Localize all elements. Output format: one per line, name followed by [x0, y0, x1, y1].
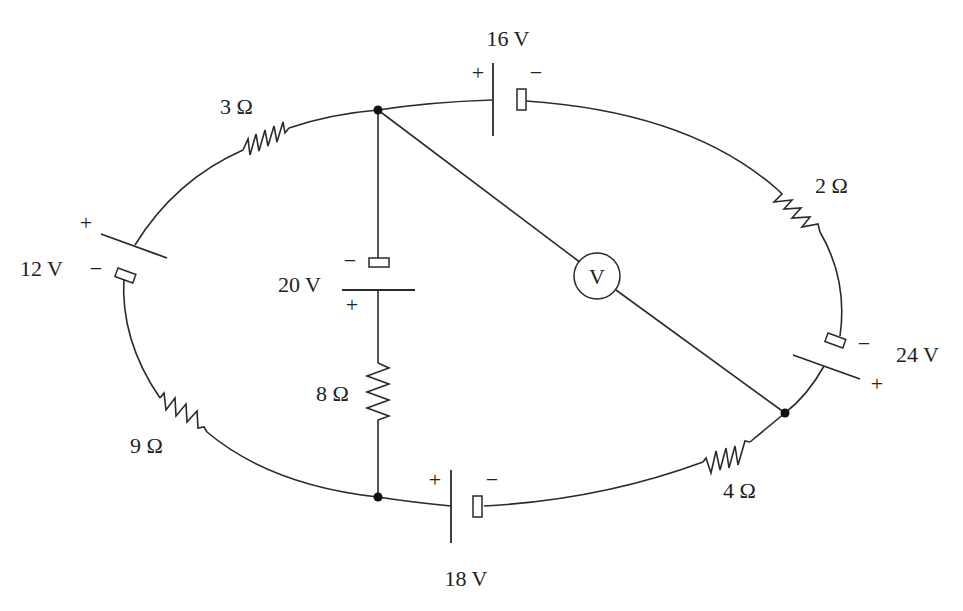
wire-top-left [378, 100, 492, 110]
battery-12v-minus-sign: − [90, 256, 102, 281]
wire-left-lower [124, 277, 160, 398]
wire-voltmeter-upper [378, 110, 581, 263]
wire-top-right [526, 101, 778, 190]
battery-18v-negative-terminal [473, 496, 482, 517]
battery-20v-negative-terminal [369, 258, 389, 267]
resistor-4ohm [703, 441, 750, 473]
battery-16v-minus-sign: − [530, 60, 542, 85]
resistor-9ohm [160, 393, 207, 432]
node-right-junction [781, 409, 790, 418]
battery-12v-plus-sign: + [80, 210, 92, 235]
battery-24v-minus-sign: − [858, 331, 870, 356]
battery-16v-negative-terminal [517, 89, 526, 110]
wire-bottom-right [484, 462, 703, 506]
battery-24v-label: 24 V [896, 342, 939, 367]
battery-24v-plus-sign: + [871, 371, 883, 396]
battery-24v-negative-terminal [825, 333, 846, 348]
wire-voltmeter-lower [616, 290, 785, 413]
wire-right-upper [820, 232, 842, 336]
node-top-junction [374, 106, 383, 115]
resistor-3ohm [243, 122, 289, 155]
resistor-9ohm-label: 9 Ω [130, 433, 163, 458]
resistor-3ohm-label: 3 Ω [220, 94, 253, 119]
battery-18v-minus-sign: − [486, 467, 498, 492]
resistor-2ohm-label: 2 Ω [815, 173, 848, 198]
wire-right-lower [785, 366, 824, 413]
resistor-8ohm-label: 8 Ω [316, 381, 349, 406]
node-bottom-junction [374, 493, 383, 502]
battery-20v-label: 20 V [278, 272, 321, 297]
battery-12v-negative-terminal [115, 268, 136, 283]
battery-18v-label: 18 V [445, 566, 488, 591]
wire-left-upper [135, 150, 243, 245]
circuit-diagram: V 16 V + − 12 V + − 20 V − + 24 V − + 18… [0, 0, 963, 611]
battery-20v-plus-sign: + [346, 292, 358, 317]
resistor-8ohm [367, 363, 389, 424]
wire-3ohm-node [289, 110, 378, 128]
battery-16v-plus-sign: + [472, 60, 484, 85]
battery-16v-label: 16 V [487, 26, 530, 51]
wire-bottom-left [378, 497, 451, 506]
voltmeter-label: V [589, 264, 605, 289]
battery-20v-minus-sign: − [344, 248, 356, 273]
battery-24v-positive-plate [793, 355, 860, 379]
battery-12v-positive-plate [101, 234, 167, 258]
wire-bottom-9ohm [207, 432, 378, 497]
resistor-2ohm [774, 190, 820, 232]
wire-right-node-4ohm [750, 413, 785, 442]
resistor-4ohm-label: 4 Ω [723, 478, 756, 503]
battery-18v-plus-sign: + [429, 467, 441, 492]
battery-12v-label: 12 V [20, 256, 63, 281]
